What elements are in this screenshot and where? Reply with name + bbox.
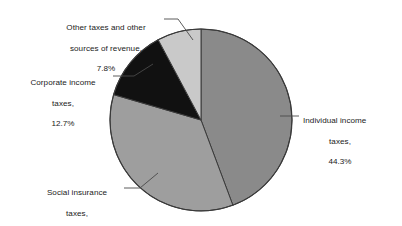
- pie-label-corporate-income-taxes-value: 12.7%: [8, 119, 118, 129]
- pie-label-other-taxes-line2: sources of revenue,: [44, 44, 168, 54]
- pie-label-social-insurance-taxes-line2: taxes,: [18, 209, 136, 219]
- pie-label-corporate-income-taxes: Corporate income taxes, 12.7%: [8, 68, 118, 139]
- pie-label-social-insurance-taxes: Social insurance taxes, 35.2%: [18, 178, 136, 226]
- pie-label-individual-income-taxes-line1: Individual income: [303, 116, 399, 126]
- pie-label-individual-income-taxes-value: 44.3%: [303, 157, 377, 167]
- pie-label-individual-income-taxes: Individual income taxes, 44.3%: [303, 106, 399, 177]
- pie-label-corporate-income-taxes-line1: Corporate income: [8, 78, 118, 88]
- pie-label-individual-income-taxes-line2: taxes,: [303, 137, 377, 147]
- pie-label-social-insurance-taxes-line1: Social insurance: [18, 188, 136, 198]
- pie-chart-figure: Other taxes and other sources of revenue…: [0, 0, 402, 226]
- pie-label-corporate-income-taxes-line2: taxes,: [8, 99, 118, 109]
- pie-label-other-taxes-line1: Other taxes and other: [44, 23, 168, 33]
